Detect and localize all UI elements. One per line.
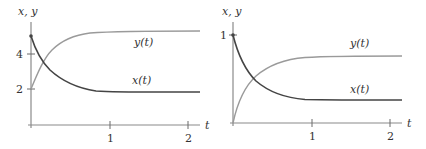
left-ttick-label-2: 2 [185,132,192,145]
right-y-curve [233,56,402,123]
left-tlabel: t [205,119,210,132]
left-x-curve [31,36,200,92]
left-y-curve [31,31,200,89]
right-x-curve [233,35,402,100]
right-ytick-label-1: 1 [220,29,227,42]
left-ytick-label-4: 4 [16,48,23,61]
left-x-start-point [29,34,33,38]
right-ylabel: x, y [222,5,242,18]
left-chart: x, y 4 2 1 2 t y(t) x(t) [16,5,210,145]
left-ytick-label-2: 2 [16,83,23,96]
right-tlabel: t [407,117,412,130]
right-ttick-label-2: 2 [387,130,394,143]
right-y-curve-label: y(t) [349,37,369,50]
figure: x, y 4 2 1 2 t y(t) x(t) x, y 1 1 2 t y(… [0,0,426,149]
left-y-curve-label: y(t) [133,36,153,49]
left-ylabel: x, y [18,5,38,18]
right-x-curve-label: x(t) [350,83,369,96]
left-x-curve-label: x(t) [132,74,151,87]
right-x-start-point [231,33,235,37]
left-ttick-label-1: 1 [107,132,114,145]
right-chart: x, y 1 1 2 t y(t) x(t) [220,5,412,143]
right-ttick-label-1: 1 [309,130,316,143]
